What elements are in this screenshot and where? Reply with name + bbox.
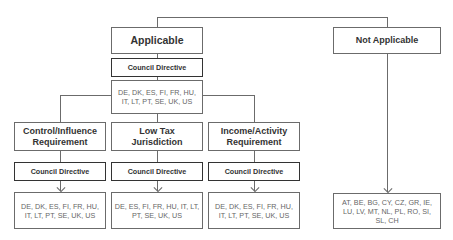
connector-not-applicable-drop	[387, 53, 388, 192]
connector-top-left-drop	[157, 17, 158, 27]
applicable-box: Applicable	[111, 27, 203, 54]
requirement-control-influence: Control/Influence Requirement	[14, 122, 106, 151]
connector-top-right-drop	[387, 17, 388, 27]
not-applicable-countries-box: AT, BE, BG, CY, CZ, GR, IE, LU, LV, MT, …	[333, 193, 441, 229]
requirement-low-tax: Low Tax Jurisdiction	[111, 122, 203, 151]
connector-top-horizontal	[157, 17, 388, 18]
connector-right-branch	[202, 95, 255, 96]
connector-req3-directive	[254, 150, 255, 162]
requirement-low-tax-countries: DE, ES, FI, FR, HU, IT, LT, PT, SE, UK, …	[111, 192, 203, 229]
connector-req1-directive	[60, 150, 61, 162]
applicable-directive-box: Council Directive	[111, 58, 203, 77]
requirement-income-activity: Income/Activity Requirement	[208, 122, 300, 151]
requirement-income-countries: DE, DK, ES, FI, FR, HU, IT, LT, PT, SE, …	[208, 192, 300, 229]
requirement-control-countries: DE, DK, ES, FI, FR, HU, IT, LT, PT, SE, …	[14, 192, 106, 229]
connector-left-drop	[60, 95, 61, 122]
connector-right-drop	[254, 95, 255, 122]
requirement-income-directive: Council Directive	[208, 162, 300, 181]
applicable-countries-box: DE, DK, ES, FI, FR, HU, IT, LT, PT, SE, …	[111, 80, 203, 114]
connector-center-drop	[157, 113, 158, 122]
not-applicable-box: Not Applicable	[333, 27, 441, 54]
connector-req2-directive	[157, 150, 158, 162]
requirement-low-tax-directive: Council Directive	[111, 162, 203, 181]
requirement-control-directive: Council Directive	[14, 162, 106, 181]
connector-left-branch	[60, 95, 111, 96]
